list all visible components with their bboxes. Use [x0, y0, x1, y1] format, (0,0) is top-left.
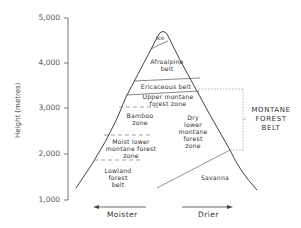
savanna-boundary: [157, 150, 230, 188]
zone-bamboo: Bamboo zone: [115, 112, 165, 126]
zone-moist-lower-montane: Moist lower montane forest zone: [103, 138, 159, 159]
zone-ice: Ice: [156, 35, 165, 42]
zone-lowland-forest: Lowland forest belt: [98, 167, 138, 188]
zone-upper-montane: Upper montane forest zone: [138, 93, 198, 107]
tick-1000: 1,000: [20, 195, 60, 204]
zone-afroalpine: Afroalpine belt: [145, 58, 189, 72]
tick-3000: 3,000: [20, 103, 60, 112]
tick-4000: 4,000: [20, 58, 60, 67]
tick-2000: 2,000: [20, 149, 60, 158]
y-axis-label: Height (metres): [14, 78, 22, 138]
zone-savanna: Savanna: [195, 174, 235, 181]
montane-forest-belt-label: MONTANE FOREST BELT: [246, 106, 296, 133]
tick-5000: 5,000: [20, 13, 60, 22]
zone-dry-lower-montane: Dry lower montane forest zone: [173, 114, 213, 149]
zone-ericaceous: Ericaceous belt: [131, 83, 201, 90]
drier-label: Drier: [198, 210, 219, 219]
moister-label: Moister: [107, 210, 138, 219]
